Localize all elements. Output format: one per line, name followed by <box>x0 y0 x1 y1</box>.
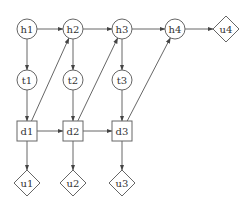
node-u4: u4 <box>213 16 239 42</box>
node-label: h2 <box>67 24 80 35</box>
node-label: t1 <box>22 75 32 86</box>
node-label: d1 <box>21 126 34 137</box>
node-t3: t3 <box>112 70 132 90</box>
node-label: t3 <box>117 75 127 86</box>
node-t2: t2 <box>63 70 83 90</box>
node-h2: h2 <box>63 19 83 39</box>
edges-layer <box>27 29 213 170</box>
influence-diagram: h1h2h3h4u4t1t2t3d1d2d3u1u2u3 <box>0 0 252 209</box>
node-label: u3 <box>116 178 129 189</box>
node-h4: h4 <box>165 19 185 39</box>
node-d1: d1 <box>17 121 37 141</box>
node-label: h1 <box>21 24 34 35</box>
node-label: u4 <box>220 24 233 35</box>
node-t1: t1 <box>17 70 37 90</box>
node-label: u1 <box>21 178 34 189</box>
node-u2: u2 <box>60 170 86 196</box>
node-u3: u3 <box>109 170 135 196</box>
node-label: u2 <box>67 178 80 189</box>
node-d2: d2 <box>63 121 83 141</box>
node-d3: d3 <box>112 121 132 141</box>
node-label: d3 <box>116 126 129 137</box>
nodes-layer: h1h2h3h4u4t1t2t3d1d2d3u1u2u3 <box>14 16 239 196</box>
node-label: t2 <box>68 75 78 86</box>
node-label: h4 <box>169 24 182 35</box>
node-h1: h1 <box>17 19 37 39</box>
edge-d3-to-h4 <box>127 38 170 121</box>
node-label: h3 <box>116 24 129 35</box>
node-label: d2 <box>67 126 80 137</box>
node-h3: h3 <box>112 19 132 39</box>
node-u1: u1 <box>14 170 40 196</box>
